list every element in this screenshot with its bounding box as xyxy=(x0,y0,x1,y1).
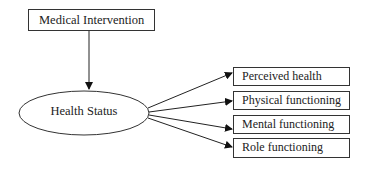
health-status-label: Health Status xyxy=(19,104,149,119)
medical-intervention-node: Medical Intervention xyxy=(28,9,155,31)
perceived-health-node: Perceived health xyxy=(233,67,350,86)
physical-functioning-node: Physical functioning xyxy=(233,91,350,110)
edge-to-mental xyxy=(149,115,232,129)
role-functioning-node: Role functioning xyxy=(233,138,350,158)
mental-functioning-node: Mental functioning xyxy=(233,115,350,134)
